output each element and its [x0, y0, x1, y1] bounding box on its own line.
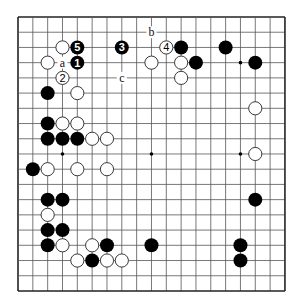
- white-stone: [41, 56, 54, 69]
- white-stone: [175, 56, 188, 69]
- white-stone: [71, 117, 84, 130]
- hoshi-point: [61, 152, 65, 156]
- move-number-1: 1: [74, 57, 80, 69]
- black-stone: [100, 238, 114, 252]
- black-stone: [233, 238, 247, 252]
- black-stone: [41, 117, 55, 131]
- mark-a: a: [60, 56, 66, 70]
- black-stone: [41, 238, 55, 252]
- white-stone: [41, 208, 54, 221]
- black-stone: [41, 193, 55, 207]
- black-stone: [85, 254, 99, 268]
- white-stone: [100, 132, 113, 145]
- white-stone: [249, 102, 262, 115]
- white-stone: [100, 163, 113, 176]
- move-number-5: 5: [74, 41, 80, 53]
- white-stone: [56, 239, 69, 252]
- mark-b: b: [148, 25, 154, 39]
- white-stone: [249, 147, 262, 160]
- white-stone: [115, 254, 128, 267]
- white-stone: [86, 239, 99, 252]
- black-stone: [55, 132, 69, 146]
- black-stone: [248, 56, 262, 70]
- black-stone: [41, 132, 55, 146]
- black-stone: [219, 40, 233, 54]
- white-stone: [56, 117, 69, 130]
- white-stone: [71, 254, 84, 267]
- black-stone: [41, 86, 55, 100]
- move-number-4: 4: [163, 41, 169, 53]
- white-stone: [100, 254, 113, 267]
- white-stone: [71, 87, 84, 100]
- go-board: abc 13524: [0, 0, 301, 303]
- white-stone: [71, 163, 84, 176]
- black-stone: [41, 223, 55, 237]
- black-stone: [189, 56, 203, 70]
- hoshi-point: [239, 152, 243, 156]
- black-stone: [174, 40, 188, 54]
- mark-c: c: [119, 71, 124, 85]
- black-stone: [233, 254, 247, 268]
- black-stone: [55, 223, 69, 237]
- move-number-3: 3: [119, 41, 125, 53]
- move-number-2: 2: [59, 72, 65, 84]
- black-stone: [70, 132, 84, 146]
- hoshi-point: [150, 152, 154, 156]
- black-stone: [144, 238, 158, 252]
- black-stone: [26, 162, 40, 176]
- hoshi-point: [239, 61, 243, 65]
- black-stone: [248, 193, 262, 207]
- white-stone: [41, 163, 54, 176]
- white-stone: [175, 71, 188, 84]
- white-stone: [86, 132, 99, 145]
- white-stone: [145, 56, 158, 69]
- black-stone: [55, 193, 69, 207]
- white-stone: [56, 41, 69, 54]
